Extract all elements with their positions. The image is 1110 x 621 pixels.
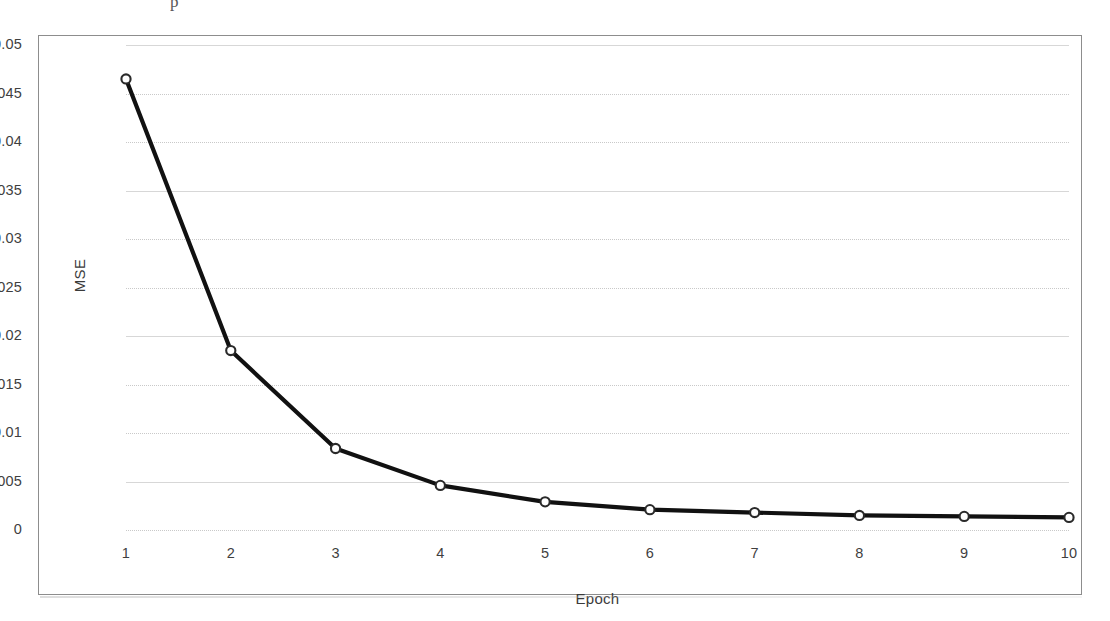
y-tick-label: 0.005 (0, 473, 22, 489)
data-point-marker (436, 481, 445, 490)
scan-artifact-glyph: p (170, 0, 179, 12)
x-axis-title: Epoch (126, 590, 1069, 607)
data-point-marker (960, 512, 969, 521)
y-tick-label: 0 (0, 521, 22, 537)
plot-area: 00.0050.010.0150.020.0250.030.0350.040.0… (126, 45, 1069, 530)
y-axis-title: MSE (71, 259, 88, 292)
x-tick-label: 7 (725, 545, 785, 561)
gridline (126, 530, 1069, 531)
series-markers (121, 74, 1073, 522)
data-point-marker (121, 74, 130, 83)
y-tick-label: 0.035 (0, 182, 22, 198)
data-point-marker (855, 511, 864, 520)
x-tick-label: 4 (410, 545, 470, 561)
y-tick-label: 0.02 (0, 327, 22, 343)
y-tick-label: 0.04 (0, 133, 22, 149)
scan-band (40, 596, 1082, 598)
x-tick-label: 6 (620, 545, 680, 561)
x-tick-label: 10 (1039, 545, 1099, 561)
series-line-mse (126, 79, 1069, 517)
data-point-marker (1064, 513, 1073, 522)
y-tick-label: 0.015 (0, 376, 22, 392)
x-tick-label: 5 (515, 545, 575, 561)
data-point-marker (331, 444, 340, 453)
data-point-marker (541, 497, 550, 506)
x-tick-label: 2 (201, 545, 261, 561)
y-tick-label: 0.045 (0, 85, 22, 101)
y-tick-label: 0.01 (0, 424, 22, 440)
x-tick-label: 9 (934, 545, 994, 561)
data-point-marker (226, 346, 235, 355)
data-point-marker (645, 505, 654, 514)
chart-frame: 00.0050.010.0150.020.0250.030.0350.040.0… (38, 35, 1082, 595)
x-tick-label: 3 (306, 545, 366, 561)
x-tick-label: 8 (829, 545, 889, 561)
x-tick-label: 1 (96, 545, 156, 561)
y-tick-label: 0.025 (0, 279, 22, 295)
data-point-marker (750, 508, 759, 517)
y-tick-label: 0.05 (0, 36, 22, 52)
series-plot (126, 45, 1069, 530)
y-tick-label: 0.03 (0, 230, 22, 246)
